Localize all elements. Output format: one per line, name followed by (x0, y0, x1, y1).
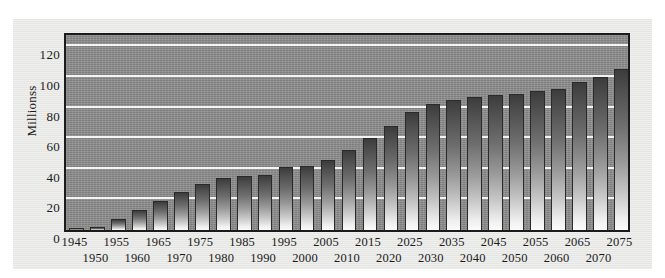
bar-2020[interactable] (384, 126, 399, 230)
bar-2065[interactable] (572, 82, 587, 230)
bar-1960[interactable] (132, 210, 147, 230)
chart-figure: Millionss 020406080100120 19451950195519… (13, 19, 652, 269)
x-tick-label-2020: 2020 (376, 251, 402, 266)
bar-1950[interactable] (90, 227, 105, 230)
bar-2015[interactable] (363, 138, 378, 230)
x-tick-label-2015: 2015 (355, 235, 381, 250)
bar-2005[interactable] (321, 160, 336, 230)
x-tick-label-1990: 1990 (250, 251, 276, 266)
bar-2030[interactable] (426, 104, 441, 230)
plot-area (64, 33, 630, 232)
x-tick-label-1970: 1970 (166, 251, 192, 266)
bar-1970[interactable] (174, 192, 189, 230)
x-tick-label-1975: 1975 (187, 235, 213, 250)
x-tick-label-2005: 2005 (313, 235, 339, 250)
y-axis-tick-labels: 020406080100120 (13, 33, 60, 232)
bar-2055[interactable] (530, 91, 545, 230)
x-axis-tick-labels: 1945195019551960196519701975198019851990… (64, 235, 630, 269)
bar-1955[interactable] (111, 219, 126, 230)
bar-2075[interactable] (614, 69, 629, 230)
x-tick-label-2010: 2010 (334, 251, 360, 266)
bar-2050[interactable] (509, 94, 524, 230)
x-tick-label-2075: 2075 (607, 235, 633, 250)
x-tick-label-1995: 1995 (271, 235, 297, 250)
x-tick-label-1985: 1985 (229, 235, 255, 250)
x-tick-label-2030: 2030 (418, 251, 444, 266)
x-tick-label-1955: 1955 (104, 235, 130, 250)
x-tick-label-2045: 2045 (481, 235, 507, 250)
bar-2035[interactable] (446, 100, 461, 230)
bar-2000[interactable] (300, 166, 315, 230)
x-tick-label-2035: 2035 (439, 235, 465, 250)
bar-1965[interactable] (153, 201, 168, 230)
x-tick-label-2065: 2065 (565, 235, 591, 250)
x-tick-label-2040: 2040 (460, 251, 486, 266)
x-tick-label-1945: 1945 (62, 235, 88, 250)
x-tick-label-2025: 2025 (397, 235, 423, 250)
x-tick-label-2000: 2000 (292, 251, 318, 266)
x-tick-label-2070: 2070 (586, 251, 612, 266)
bar-1945[interactable] (69, 228, 84, 230)
plot-inner (66, 35, 628, 230)
x-tick-label-2050: 2050 (502, 251, 528, 266)
x-tick-label-1960: 1960 (124, 251, 150, 266)
bar-1980[interactable] (216, 178, 231, 230)
bar-2070[interactable] (593, 77, 608, 230)
bar-2025[interactable] (405, 112, 420, 230)
bar-1990[interactable] (258, 175, 273, 230)
bar-2040[interactable] (467, 97, 482, 230)
x-tick-label-2055: 2055 (523, 235, 549, 250)
x-tick-label-1950: 1950 (83, 251, 109, 266)
gridline-100 (66, 75, 628, 77)
x-tick-label-2060: 2060 (544, 251, 570, 266)
bar-1995[interactable] (279, 167, 294, 230)
bar-1975[interactable] (195, 184, 210, 230)
x-tick-label-1965: 1965 (145, 235, 171, 250)
bar-2010[interactable] (342, 150, 357, 230)
x-tick-label-1980: 1980 (208, 251, 234, 266)
gridline-120 (66, 44, 628, 46)
bar-1985[interactable] (237, 176, 252, 230)
bar-2045[interactable] (488, 95, 503, 230)
bar-2060[interactable] (551, 89, 566, 230)
